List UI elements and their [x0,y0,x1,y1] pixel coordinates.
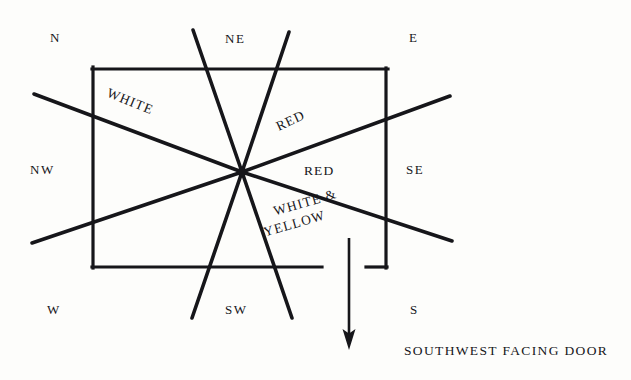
ray-ne-left [193,30,242,172]
ray-w-outer [32,172,242,243]
compass-label-southwest: SW [225,303,248,316]
compass-label-northwest: NW [30,163,55,176]
ray-s-right [242,172,292,318]
compass-label-southeast: SE [406,163,424,176]
compass-label-south: S [410,303,419,316]
door-caption: SOUTHWEST FACING DOOR [404,344,608,358]
compass-room-diagram [0,0,631,380]
door-direction-arrow [343,238,356,350]
compass-label-east: E [409,31,419,44]
compass-center-node [237,167,246,176]
ray-ne-right [242,32,289,172]
compass-label-west: W [47,303,61,316]
ray-e-outer [242,96,450,172]
ray-sw-left [192,172,242,318]
zone-label-red-lower: RED [304,164,334,178]
compass-label-north: N [50,31,61,44]
diagram-canvas: N NE E NW SE W SW S WHITE RED RED WHITE … [0,0,631,380]
compass-label-northeast: NE [225,32,246,45]
